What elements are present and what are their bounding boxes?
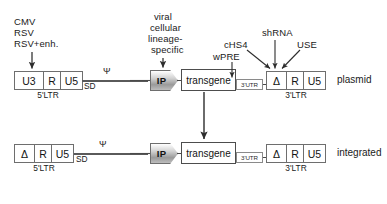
integrated-3ltr-segment-r: R <box>287 145 304 162</box>
promoter-annotation-line-3: RSV+enh. <box>14 39 58 50</box>
use-annotation: USE <box>297 40 317 51</box>
vector-diagram: CMV RSV RSV+enh. viral cellular lineage-… <box>0 0 387 204</box>
plasmid-internal-promoter-ip: IP <box>150 70 178 91</box>
plasmid-row-label: plasmid <box>337 74 371 85</box>
plasmid-three-prime-utr-box: 3'UTR <box>236 79 263 90</box>
use-arrow <box>282 50 300 69</box>
plasmid-3ltr-segment-u5: U5 <box>304 72 325 89</box>
integrated-three-prime-utr-box: 3'UTR <box>236 152 263 163</box>
plasmid-5ltr-segment-r: R <box>44 72 61 89</box>
promoter-annotation-line-1: CMV <box>14 17 35 28</box>
plasmid-5ltr-segment-u5: U5 <box>61 72 82 89</box>
integrated-5ltr-segment-delta: Δ <box>15 145 35 162</box>
wpre-annotation: wPRE <box>213 52 240 63</box>
plasmid-five-prime-ltr: U3 R U5 <box>14 71 83 90</box>
plasmid-3ltr-segment-delta: Δ <box>267 72 287 89</box>
internal-promoter-annotation-line-2: cellular <box>150 23 181 34</box>
internal-promoter-annotation-line-1: viral <box>154 12 172 23</box>
integrated-row-label: integrated <box>337 147 381 158</box>
plasmid-ip-label: IP <box>157 75 166 86</box>
integrated-3ltr-segment-u5: U5 <box>304 145 325 162</box>
integrated-ip-label: IP <box>157 148 166 159</box>
plasmid-five-prime-ltr-caption: 5'LTR <box>14 91 82 100</box>
integrated-five-prime-ltr: Δ R U5 <box>14 144 74 163</box>
plasmid-psi-label: Ψ <box>103 67 111 76</box>
shrna-annotation: shRNA <box>262 28 293 39</box>
plasmid-three-prime-ltr: Δ R U5 <box>266 71 326 90</box>
plasmid-3ltr-segment-r: R <box>287 72 304 89</box>
internal-promoter-annotation-line-3: lineage- <box>148 34 183 45</box>
integrated-3ltr-segment-delta: Δ <box>267 145 287 162</box>
integrated-internal-promoter-ip: IP <box>150 143 178 164</box>
connector-overlay <box>0 0 387 204</box>
plasmid-sd-label: SD <box>84 82 96 91</box>
integrated-sd-label: SD <box>76 155 88 164</box>
integrated-three-prime-ltr: Δ R U5 <box>266 144 326 163</box>
integrated-transgene-box: transgene <box>181 142 236 164</box>
integrated-5ltr-segment-r: R <box>35 145 52 162</box>
chs4-annotation: cHS4 <box>224 40 248 51</box>
chs4-arrow <box>247 50 270 69</box>
promoter-annotation-line-2: RSV <box>14 28 34 39</box>
plasmid-5ltr-segment-u3: U3 <box>15 72 44 89</box>
plasmid-three-prime-ltr-caption: 3'LTR <box>266 91 326 100</box>
integrated-5ltr-segment-u5: U5 <box>52 145 73 162</box>
integrated-three-prime-ltr-caption: 3'LTR <box>266 164 326 173</box>
plasmid-transgene-box: transgene <box>181 69 236 91</box>
internal-promoter-annotation-line-4: specific <box>151 45 183 56</box>
integrated-five-prime-ltr-caption: 5'LTR <box>14 164 74 173</box>
integrated-psi-label: Ψ <box>99 140 107 149</box>
